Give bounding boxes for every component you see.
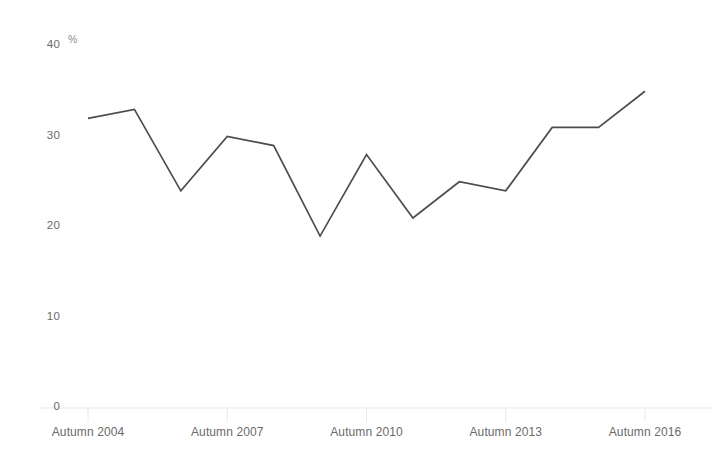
data-series-line — [88, 91, 645, 236]
x-tick-label-autumn-2016: Autumn 2016 — [590, 425, 700, 439]
x-tick-label-autumn-2007: Autumn 2007 — [172, 425, 282, 439]
chart-gridlines — [88, 408, 645, 422]
y-tick-label-30: 30 — [26, 129, 60, 141]
y-tick-label-40: 40 — [26, 38, 60, 50]
x-tick-label-autumn-2010: Autumn 2010 — [312, 425, 422, 439]
y-tick-label-20: 20 — [26, 219, 60, 231]
line-chart: % 010203040 Autumn 2004Autumn 2007Autumn… — [0, 0, 712, 464]
x-tick-label-autumn-2013: Autumn 2013 — [451, 425, 561, 439]
x-tick-label-autumn-2004: Autumn 2004 — [33, 425, 143, 439]
y-tick-label-10: 10 — [26, 310, 60, 322]
y-tick-label-0: 0 — [26, 400, 60, 412]
chart-plot-area — [0, 0, 712, 464]
